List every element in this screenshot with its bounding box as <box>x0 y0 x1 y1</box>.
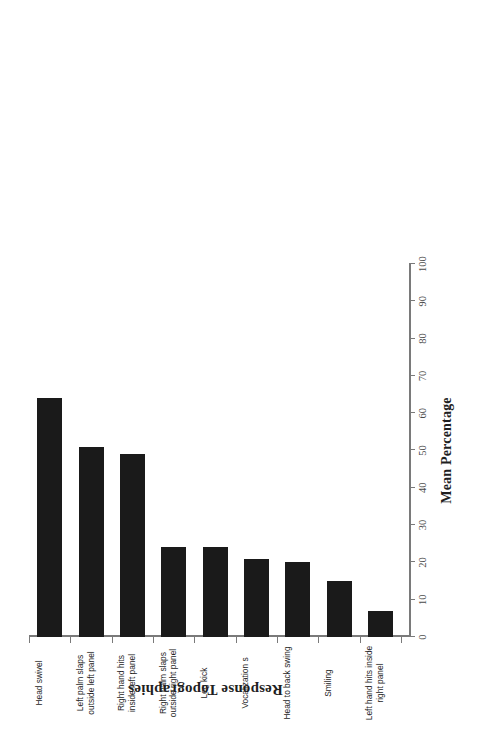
value-tick <box>409 263 415 264</box>
value-tick-label: 70 <box>417 359 428 393</box>
value-tick <box>409 450 415 451</box>
category-axis-title: Response Topographies <box>6 681 406 698</box>
category-tick <box>318 637 319 643</box>
rotated-chart-stage: 0102030405060708090100 Head swivelLeft p… <box>7 7 479 729</box>
bar <box>37 398 62 637</box>
bar <box>285 562 310 637</box>
value-tick <box>409 300 415 301</box>
value-tick-label: 0 <box>417 620 428 654</box>
category-tick <box>70 637 71 643</box>
bar <box>368 611 393 637</box>
value-tick-label: 40 <box>417 471 428 505</box>
bar <box>327 581 352 637</box>
bar-chart: 0102030405060708090100 Head swivelLeft p… <box>7 7 479 729</box>
value-axis-title: Mean Percentage <box>439 264 455 637</box>
value-tick <box>409 412 415 413</box>
value-tick-label: 90 <box>417 284 428 318</box>
value-tick <box>409 375 415 376</box>
category-tick <box>112 637 113 643</box>
category-tick <box>360 637 361 643</box>
value-tick-label: 80 <box>417 322 428 356</box>
category-tick <box>277 637 278 643</box>
category-tick <box>194 637 195 643</box>
value-tick <box>409 636 415 637</box>
bar <box>161 547 186 637</box>
figure-frame: 0102030405060708090100 Head swivelLeft p… <box>7 7 479 729</box>
bar <box>120 454 145 637</box>
value-tick-label: 50 <box>417 434 428 468</box>
bar <box>203 547 228 637</box>
value-tick <box>409 524 415 525</box>
category-tick <box>401 637 402 643</box>
bar <box>244 559 269 637</box>
value-tick <box>409 487 415 488</box>
value-tick-label: 100 <box>417 247 428 281</box>
value-tick-label: 60 <box>417 396 428 430</box>
value-tick-label: 30 <box>417 508 428 542</box>
value-tick <box>409 599 415 600</box>
value-tick-label: 20 <box>417 545 428 579</box>
value-tick <box>409 338 415 339</box>
bar <box>79 447 104 637</box>
category-tick <box>153 637 154 643</box>
value-tick <box>409 561 415 562</box>
category-tick <box>29 637 30 643</box>
value-tick-label: 10 <box>417 583 428 617</box>
category-tick <box>236 637 237 643</box>
